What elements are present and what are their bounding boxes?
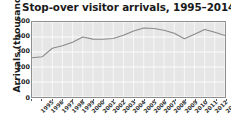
x-tick-mark [144, 99, 145, 101]
y-tick-label: 500 [17, 18, 30, 25]
series-line-arrivals [32, 28, 225, 58]
y-axis-ticks: 0100200300400500 [12, 14, 30, 106]
x-axis-ticks: 1995199619971998199920002001200220032004… [31, 99, 226, 122]
x-tick-mark [93, 99, 94, 101]
x-tick-mark [72, 99, 73, 101]
y-tick-label: 200 [17, 64, 30, 71]
x-tick-mark [31, 99, 32, 101]
x-tick-mark [103, 99, 104, 101]
x-tick-mark [185, 99, 186, 101]
chart-figure: Stop-over visitor arrivals, 1995–2014 Ar… [0, 0, 231, 122]
chart-title: Stop-over visitor arrivals, 1995–2014 [22, 1, 227, 13]
x-tick-mark [113, 99, 114, 101]
y-tick-label: 300 [17, 48, 30, 55]
x-tick-mark [205, 99, 206, 101]
y-tick-label: 400 [17, 33, 30, 40]
x-tick-mark [62, 99, 63, 101]
x-tick-mark [52, 99, 53, 101]
x-tick-mark [195, 99, 196, 101]
x-tick-mark [175, 99, 176, 101]
plot-area [31, 21, 226, 98]
x-tick-mark [154, 99, 155, 101]
x-tick-mark [216, 99, 217, 101]
line-chart-svg [32, 22, 225, 97]
y-tick-label: 100 [17, 79, 30, 86]
y-tick-label: 0 [26, 95, 30, 102]
x-tick-mark [226, 99, 227, 101]
x-tick-mark [41, 99, 42, 101]
x-tick-mark [164, 99, 165, 101]
x-tick-mark [134, 99, 135, 101]
x-tick-mark [82, 99, 83, 101]
x-tick-mark [123, 99, 124, 101]
